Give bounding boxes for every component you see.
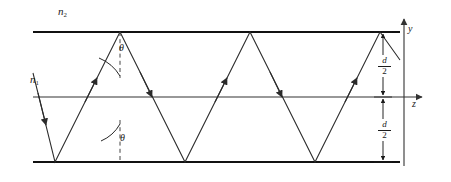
dimension-denominator-upper: 2: [378, 67, 391, 76]
dimension-d-over-2: [374, 32, 392, 162]
ray-arrow-2-up: [85, 78, 97, 102]
ray-arrow-3-down: [140, 72, 152, 97]
dimension-label-lower: d 2: [377, 119, 392, 141]
ray-arrow-5-down: [270, 72, 282, 97]
angle-label-bottom: θ: [120, 133, 125, 143]
angle-label-top: θ: [119, 43, 124, 53]
angle-arcs: [99, 58, 120, 141]
waveguide-ray-diagram: [0, 0, 451, 182]
z-axis-label: z: [412, 99, 416, 109]
cladding-index-label: n2: [58, 6, 67, 19]
ray-arrow-4-up: [215, 78, 227, 102]
y-axis-label: y: [408, 24, 412, 34]
ray-arrow-1-down: [38, 93, 46, 125]
ray-direction-arrows: [38, 72, 357, 125]
dimension-numerator-lower: d: [378, 120, 391, 129]
dimension-denominator-lower: 2: [378, 131, 391, 140]
dimension-numerator-upper: d: [378, 56, 391, 65]
ray-arrow-6-up: [345, 78, 357, 102]
angle-arc-bottom: [101, 124, 120, 141]
dimension-label-upper: d 2: [377, 55, 392, 77]
core-index-label: n1: [30, 74, 39, 87]
